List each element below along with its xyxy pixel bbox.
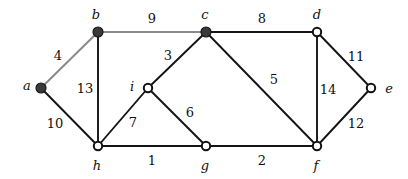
graph-vertex-a [36, 83, 46, 93]
graph-edge-g-i [148, 88, 206, 146]
graph-edge-a-b [41, 32, 98, 88]
graph-vertex-b [93, 27, 103, 37]
edges-layer [41, 32, 371, 146]
graph-vertex-g [202, 142, 210, 150]
graph-vertex-c [201, 27, 211, 37]
graph-edge-a-h [41, 88, 98, 146]
graph-vertex-d [313, 28, 321, 36]
graph-diagram: 4101398351114122167abcdefghi [0, 0, 408, 179]
graph-edge-c-f [206, 32, 317, 146]
graph-canvas [0, 0, 408, 179]
graph-vertex-h [94, 142, 102, 150]
graph-edge-d-e [317, 32, 371, 88]
graph-edge-e-f [317, 88, 371, 146]
vertices-layer [36, 27, 375, 150]
graph-edge-c-i [148, 32, 206, 88]
graph-vertex-e [367, 84, 375, 92]
graph-edge-h-i [98, 88, 148, 146]
graph-vertex-i [144, 84, 152, 92]
graph-vertex-f [313, 142, 321, 150]
